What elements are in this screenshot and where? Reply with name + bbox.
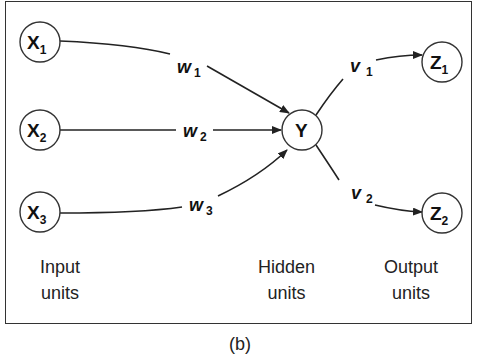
weight-v1: v1	[350, 56, 373, 79]
edge-v1-z1	[376, 55, 422, 60]
layer-label-input: Input units	[40, 254, 80, 306]
edge-x3-w3	[60, 207, 182, 213]
weight-w3: w3	[189, 195, 213, 218]
layer-label-output: Output units	[384, 254, 438, 306]
weight-w2: w2	[183, 121, 207, 144]
edge-w3-y	[218, 150, 287, 196]
edge-x1-w1	[60, 41, 170, 54]
node-y-label: Y	[295, 120, 308, 141]
edge-y-v1	[316, 79, 343, 115]
edge-w1-y	[207, 66, 289, 113]
layer-label-hidden: Hidden units	[258, 254, 315, 306]
weight-v2: v2	[351, 183, 373, 206]
weight-w1: w1	[177, 57, 201, 80]
figure-caption: (b)	[0, 334, 480, 355]
edge-v2-z2	[375, 205, 422, 212]
edge-y-v2	[316, 145, 339, 180]
